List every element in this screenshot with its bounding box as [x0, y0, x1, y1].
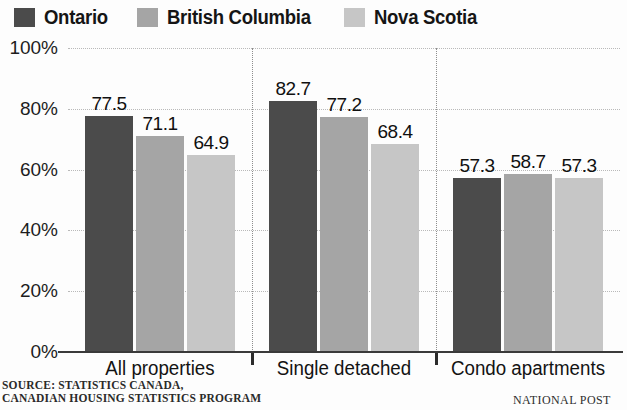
legend-item-british-columbia: British Columbia [137, 6, 318, 29]
bar-group: 82.777.268.4 [252, 48, 436, 352]
bar: 64.9 [187, 155, 235, 352]
legend-label-nova-scotia: Nova Scotia [374, 6, 477, 29]
legend-swatch-nova-scotia [344, 8, 365, 27]
plot-area: 77.571.164.982.777.268.457.358.757.3 [68, 48, 620, 352]
group-separator [252, 48, 253, 352]
x-axis-category-label: Condo apartments [440, 357, 617, 380]
source-note: SOURCE: STATISTICS CANADA, CANADIAN HOUS… [2, 379, 261, 404]
legend-item-nova-scotia: Nova Scotia [344, 6, 482, 29]
bar: 57.3 [555, 178, 603, 352]
bar-value-label: 58.7 [511, 151, 546, 173]
bar: 68.4 [371, 144, 419, 352]
publication-credit: NATIONAL POST [513, 393, 611, 408]
legend-swatch-british-columbia [137, 8, 158, 27]
x-axis-baseline [58, 351, 623, 353]
bar-group: 77.571.164.9 [68, 48, 252, 352]
bar-group: 57.358.757.3 [436, 48, 620, 352]
x-axis-category-label: All properties [72, 357, 249, 380]
chart-legend: Ontario British Columbia Nova Scotia [14, 4, 509, 30]
legend-item-ontario: Ontario [14, 6, 111, 29]
x-axis-category-label: Single detached [256, 357, 433, 380]
bar-value-label: 57.3 [562, 155, 597, 177]
bar-value-label: 71.1 [143, 113, 178, 135]
bar-value-label: 77.2 [327, 94, 362, 116]
y-axis-tick-label: 20% [0, 280, 58, 302]
bar: 71.1 [136, 136, 184, 352]
source-line-2: CANADIAN HOUSING STATISTICS PROGRAM [2, 392, 261, 405]
source-line-1: SOURCE: STATISTICS CANADA, [2, 379, 261, 392]
bar: 57.3 [453, 178, 501, 352]
y-axis-tick-label: 0% [0, 341, 58, 363]
bar-value-label: 57.3 [460, 155, 495, 177]
group-separator-tick [435, 353, 438, 365]
bar-chart: Ontario British Columbia Nova Scotia 0%2… [0, 0, 627, 410]
bar: 77.2 [320, 117, 368, 352]
bar-value-label: 77.5 [92, 93, 127, 115]
group-separator [436, 48, 437, 352]
legend-swatch-ontario [14, 8, 35, 27]
group-separator-tick [251, 353, 254, 365]
y-axis-tick-label: 100% [0, 37, 58, 59]
bar: 82.7 [269, 101, 317, 352]
bar: 58.7 [504, 174, 552, 352]
bar: 77.5 [85, 116, 133, 352]
legend-label-british-columbia: British Columbia [167, 6, 311, 29]
y-axis-tick-label: 40% [0, 219, 58, 241]
y-axis-tick-label: 60% [0, 159, 58, 181]
legend-label-ontario: Ontario [44, 6, 108, 29]
bar-value-label: 64.9 [194, 132, 229, 154]
bar-value-label: 82.7 [276, 78, 311, 100]
bar-value-label: 68.4 [378, 121, 413, 143]
y-axis-tick-label: 80% [0, 98, 58, 120]
